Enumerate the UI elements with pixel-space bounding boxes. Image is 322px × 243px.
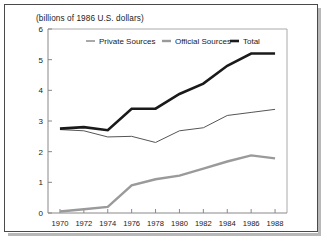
x-tick-label: 1980 xyxy=(171,219,188,228)
chart-legend: Private SourcesOfficial SourcesTotal xyxy=(86,37,260,46)
y-tick-label: 2 xyxy=(39,148,44,157)
x-tick-label: 1988 xyxy=(267,219,284,228)
x-tick-label: 1974 xyxy=(99,219,116,228)
x-tick-group: 1970197219741976197819801982198419861988 xyxy=(51,209,283,228)
y-tick-label: 5 xyxy=(39,56,44,65)
x-tick-label: 1970 xyxy=(51,219,68,228)
x-tick-label: 1984 xyxy=(219,219,236,228)
line-chart-plot: 0123456 19701972197419761978198019821984… xyxy=(0,0,322,243)
x-tick-label: 1978 xyxy=(147,219,164,228)
legend-label-official-sources: Official Sources xyxy=(175,37,231,46)
y-tick-label: 1 xyxy=(39,178,44,187)
series-line-private-sources xyxy=(60,109,275,142)
x-tick-label: 1972 xyxy=(75,219,92,228)
legend-label-private-sources: Private Sources xyxy=(99,37,155,46)
chart-figure: (billions of 1986 U.S. dollars) 0123456 … xyxy=(0,0,322,243)
y-tick-label: 6 xyxy=(39,25,44,34)
y-tick-label: 0 xyxy=(39,209,44,218)
data-series-group xyxy=(60,54,275,212)
series-line-total xyxy=(60,54,275,131)
y-tick-label: 4 xyxy=(39,86,44,95)
x-tick-label: 1976 xyxy=(123,219,140,228)
legend-label-total: Total xyxy=(243,37,260,46)
series-line-official-sources xyxy=(60,155,275,211)
y-tick-label: 3 xyxy=(39,117,44,126)
y-tick-group: 0123456 xyxy=(39,25,52,218)
x-tick-label: 1982 xyxy=(195,219,212,228)
x-tick-label: 1986 xyxy=(243,219,260,228)
axis-group xyxy=(48,29,287,213)
